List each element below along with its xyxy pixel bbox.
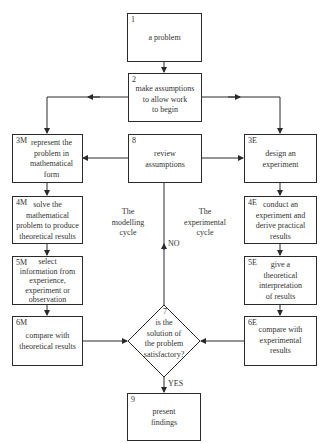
- box-5e-interpret: 5E give a theoretical interpretation of …: [244, 256, 317, 305]
- box-4m-solve: 4M solve the mathematical problem to pro…: [12, 196, 83, 244]
- step-number: 6M: [16, 318, 27, 327]
- step-text: design an experiment: [245, 149, 316, 170]
- box-6m-compare: 6M compare with theoretical results: [12, 316, 83, 366]
- step-number: 1: [131, 15, 135, 24]
- no-label: NO: [168, 239, 180, 250]
- box-8-review: 8 review assumptions: [128, 134, 202, 183]
- step-number: 8: [132, 136, 136, 145]
- modelling-cycle-label: The modelling cycle: [103, 207, 153, 239]
- step-text: compare with theoretical results: [13, 331, 82, 352]
- box-5m-select: 5M select information from experience, e…: [12, 256, 83, 305]
- yes-label: YES: [168, 379, 183, 390]
- step-number: 3E: [248, 136, 257, 145]
- step-text: represent the problem in mathematical fo…: [21, 138, 82, 180]
- step-text: solve the mathematical problem to produc…: [13, 200, 82, 242]
- experimental-cycle-label: The experimental cycle: [175, 207, 235, 239]
- step-text: select information from experience, expe…: [13, 257, 82, 305]
- step-text: compare with experimental results: [245, 325, 316, 357]
- step-text: review assumptions: [129, 149, 201, 170]
- box-9-present: 9 present findings: [127, 393, 201, 441]
- step-text: present findings: [128, 407, 200, 428]
- step-number: 9: [131, 395, 135, 404]
- box-1-problem: 1 a problem: [127, 13, 202, 62]
- step-text: a problem: [128, 33, 201, 44]
- modelling-experimental-flowchart: 1 a problem 2 make assumptions to allow …: [0, 0, 328, 443]
- step-number: 2: [132, 75, 136, 84]
- box-2-assumptions: 2 make assumptions to allow work to begi…: [128, 73, 202, 122]
- decision-text: is the solution of the problem satisfact…: [130, 318, 198, 360]
- box-6e-compare: 6E compare with experimental results: [244, 316, 317, 366]
- decision-number: 7: [160, 307, 170, 318]
- step-text: give a theoretical interpretation of res…: [245, 260, 316, 302]
- step-text: make assumptions to allow work to begin: [129, 84, 201, 116]
- box-3e-design: 3E design an experiment: [244, 134, 317, 183]
- box-3m-represent: 3M represent the problem in mathematical…: [12, 134, 83, 183]
- step-text: conduct an experiment and derive practic…: [245, 200, 316, 242]
- box-4e-conduct: 4E conduct an experiment and derive prac…: [244, 196, 317, 244]
